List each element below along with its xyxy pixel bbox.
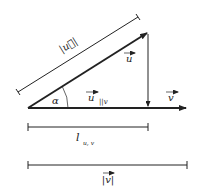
svg-text:u: u xyxy=(88,92,94,103)
svg-text:|u⃗|: |u⃗| xyxy=(57,35,80,55)
vector-v-label: v xyxy=(166,92,178,103)
vector-u-label: u xyxy=(124,53,135,64)
svg-text:|v|: |v| xyxy=(102,174,114,186)
svg-text:l: l xyxy=(76,131,80,144)
v-magnitude-dimension xyxy=(28,161,187,169)
angle-arc xyxy=(63,87,69,108)
angle-label: α xyxy=(52,95,59,106)
u-magnitude-label: |u⃗| xyxy=(57,35,80,55)
v-magnitude-label: |v| xyxy=(102,173,114,186)
projection-length-dimension xyxy=(28,123,148,131)
vector-projection-diagram: |u⃗| u v α u ||v l u, v |v| xyxy=(0,0,198,193)
svg-text:u: u xyxy=(126,53,132,64)
projection-length-label: l u, v xyxy=(76,131,95,146)
u-magnitude-dimension xyxy=(16,14,140,95)
svg-text:u, v: u, v xyxy=(83,139,95,146)
u-parallel-label: u ||v xyxy=(86,92,108,106)
svg-text:||v: ||v xyxy=(99,98,108,106)
svg-text:v: v xyxy=(168,92,174,103)
